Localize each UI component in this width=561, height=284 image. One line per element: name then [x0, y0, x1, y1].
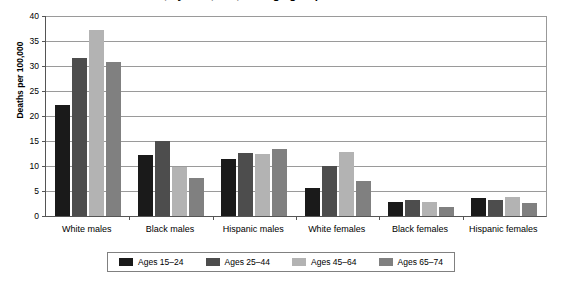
bar[interactable] [422, 202, 437, 217]
bar[interactable] [189, 178, 204, 217]
legend-label: Ages 65–74 [398, 257, 443, 267]
legend-label: Ages 45–64 [311, 257, 356, 267]
y-tick-label: 5 [9, 186, 39, 196]
legend-swatch-icon [119, 258, 133, 266]
bar[interactable] [55, 105, 70, 217]
bar[interactable] [488, 200, 503, 217]
bar-group [296, 16, 379, 216]
bar[interactable] [155, 141, 170, 216]
bar-group [46, 16, 129, 216]
bar-groups [46, 16, 546, 216]
bar[interactable] [471, 198, 486, 217]
x-axis-labels: White malesBlack malesHispanic malesWhit… [45, 224, 545, 234]
x-axis-label: White males [45, 224, 128, 234]
x-tick-mark [379, 216, 380, 220]
y-tick-label: 10 [9, 161, 39, 171]
plot-area: 4035302520151050 [45, 16, 547, 217]
x-axis-label: Hispanic males [212, 224, 295, 234]
x-axis-label: Black females [378, 224, 461, 234]
legend-label: Ages 25–44 [225, 257, 270, 267]
legend-item[interactable]: Ages 65–74 [379, 257, 443, 267]
y-tick-label: 25 [9, 86, 39, 96]
chart-legend: Ages 15–24Ages 25–44Ages 45–64Ages 65–74 [107, 252, 455, 272]
bar[interactable] [305, 188, 320, 216]
y-tick-label: 0 [9, 211, 39, 221]
bar[interactable] [72, 58, 87, 217]
bar-group [129, 16, 212, 216]
bar[interactable] [439, 207, 454, 216]
bar[interactable] [522, 203, 537, 217]
bar[interactable] [138, 155, 153, 217]
bar[interactable] [388, 202, 403, 217]
x-axis-label: White females [295, 224, 378, 234]
y-tick-label: 35 [9, 36, 39, 46]
y-tick-label: 15 [9, 136, 39, 146]
x-tick-mark [129, 216, 130, 220]
x-tick-mark [296, 216, 297, 220]
bar[interactable] [172, 167, 187, 217]
legend-label: Ages 15–24 [138, 257, 183, 267]
bar[interactable] [356, 181, 371, 216]
bar[interactable] [106, 62, 121, 216]
legend-swatch-icon [206, 258, 220, 266]
bar[interactable] [238, 153, 253, 216]
x-tick-mark [213, 216, 214, 220]
bar[interactable] [339, 152, 354, 216]
legend-item[interactable]: Ages 15–24 [119, 257, 183, 267]
legend-item[interactable]: Ages 45–64 [292, 257, 356, 267]
x-tick-mark [463, 216, 464, 220]
y-tick-label: 20 [9, 111, 39, 121]
y-tick-label: 30 [9, 61, 39, 71]
y-tick-mark [42, 216, 46, 217]
bar-group [463, 16, 546, 216]
legend-item[interactable]: Ages 25–44 [206, 257, 270, 267]
bar[interactable] [505, 197, 520, 216]
x-axis-label: Hispanic females [462, 224, 545, 234]
bar-group [213, 16, 296, 216]
legend-swatch-icon [379, 258, 393, 266]
bar[interactable] [322, 166, 337, 217]
bar[interactable] [405, 200, 420, 216]
bar[interactable] [255, 154, 270, 217]
chart-title: Death rates for suicide, by race, sex, a… [40, 0, 520, 3]
y-axis-title: Deaths per 100,000 [15, 15, 25, 145]
bar-group [379, 16, 462, 216]
y-tick-label: 40 [9, 11, 39, 21]
bar[interactable] [89, 30, 104, 216]
legend-swatch-icon [292, 258, 306, 266]
bar[interactable] [272, 149, 287, 216]
bar[interactable] [221, 159, 236, 217]
x-axis-label: Black males [128, 224, 211, 234]
